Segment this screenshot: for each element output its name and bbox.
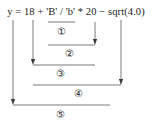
step-2-label: ② bbox=[59, 49, 79, 59]
step-2-arrow-head bbox=[93, 39, 97, 45]
step-4-arrow-head bbox=[119, 79, 123, 85]
step-5-label: ⑤ bbox=[50, 110, 70, 120]
step-3-label: ③ bbox=[50, 69, 70, 79]
step-1-label: ① bbox=[51, 27, 71, 37]
step-3-arrow-head bbox=[31, 59, 35, 65]
evaluation-order-lines bbox=[0, 0, 152, 129]
expression-order-diagram: y = 18 + 'B' / 'b' * 20 − sqrt(4.0) ① ② … bbox=[0, 0, 152, 129]
step-5-arrow-head bbox=[11, 99, 15, 105]
step-4-label: ④ bbox=[68, 89, 88, 99]
